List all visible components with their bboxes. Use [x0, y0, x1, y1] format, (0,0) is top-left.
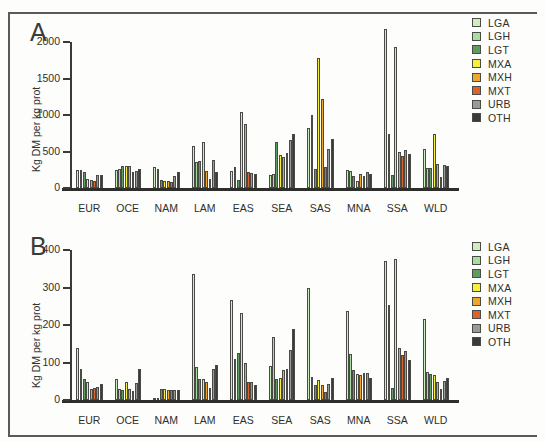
x-axis-line — [62, 188, 459, 191]
legend-label: MXH — [488, 71, 512, 83]
figure-container: A Kg DM per kg prot 0500100015002000EURO… — [0, 0, 545, 442]
legend-swatch — [472, 269, 481, 278]
panel-a-plot-area: 0500100015002000EUROCENAMLAMEASSEASASMNA… — [70, 42, 455, 188]
y-axis-tick-label: 400 — [8, 243, 60, 255]
x-axis-tick-label: SAS — [301, 414, 340, 426]
legend-swatch — [472, 310, 481, 319]
y-axis-tick — [63, 78, 70, 80]
legend-label: LGT — [488, 44, 509, 56]
legend-item: MXH — [472, 70, 512, 84]
bar — [408, 360, 411, 401]
legend-item: URB — [472, 322, 512, 336]
y-axis-tick-label: 0 — [8, 393, 60, 405]
bar — [177, 390, 180, 400]
y-axis-tick — [63, 324, 70, 326]
y-axis-tick-label: 1500 — [8, 72, 60, 84]
legend-swatch — [472, 45, 481, 54]
legend-label: LGA — [488, 17, 510, 29]
panel-b: B Kg DM per kg prot 0100200300400EUROCEN… — [0, 228, 545, 438]
legend-label: MXA — [488, 282, 511, 294]
x-axis-tick-label: NAM — [147, 414, 186, 426]
x-axis-tick-label: SEA — [263, 414, 302, 426]
bar — [388, 305, 391, 400]
y-axis-tick — [63, 287, 70, 289]
bar — [331, 378, 334, 401]
bar — [331, 139, 334, 188]
legend-swatch — [472, 242, 481, 251]
x-axis-tick-label: WLD — [417, 414, 456, 426]
x-axis-tick-label: MNA — [340, 414, 379, 426]
bar — [177, 172, 180, 188]
legend-swatch — [472, 32, 481, 41]
y-axis-line — [70, 250, 72, 401]
legend-item: MXH — [472, 294, 512, 308]
legend-swatch — [472, 256, 481, 265]
y-axis-tick-label: 200 — [8, 318, 60, 330]
legend-item: URB — [472, 98, 512, 112]
legend-swatch — [472, 297, 481, 306]
legend-item: LGA — [472, 240, 512, 254]
panel-a: A Kg DM per kg prot 0500100015002000EURO… — [0, 12, 545, 227]
bar — [446, 378, 449, 400]
x-axis-tick-label: EUR — [70, 202, 109, 214]
panel-a-legend: LGALGHLGTMXAMXHMXTURBOTH — [472, 16, 512, 125]
x-axis-tick-label: EAS — [224, 202, 263, 214]
x-axis-tick-label: WLD — [417, 202, 456, 214]
legend-item: LGA — [472, 16, 512, 30]
legend-swatch — [472, 59, 481, 68]
legend-item: OTH — [472, 335, 512, 349]
bar — [369, 378, 372, 400]
x-axis-tick-label: OCE — [109, 202, 148, 214]
y-axis-tick — [63, 249, 70, 251]
x-axis-tick-label: MNA — [340, 202, 379, 214]
legend-item: MXA — [472, 57, 512, 71]
y-axis-tick — [63, 187, 70, 189]
legend-swatch — [472, 113, 481, 122]
x-axis-tick-label: LAM — [186, 414, 225, 426]
bar — [369, 174, 372, 188]
bar — [100, 384, 103, 400]
legend-item: MXT — [472, 84, 512, 98]
y-axis-tick-label: 2000 — [8, 35, 60, 47]
x-axis-line — [62, 400, 459, 403]
bar — [138, 169, 141, 188]
y-axis-line — [70, 42, 72, 189]
panel-b-plot-area: 0100200300400EUROCENAMLAMEASSEASASMNASSA… — [70, 250, 455, 400]
y-axis-tick-label: 300 — [8, 281, 60, 293]
bar — [292, 134, 295, 188]
y-axis-tick-label: 1000 — [8, 108, 60, 120]
y-axis-tick-label: 0 — [8, 181, 60, 193]
legend-label: MXT — [488, 309, 511, 321]
panel-a-y-axis-title: Kg DM per kg prot — [30, 87, 42, 172]
x-axis-tick-label: LAM — [186, 202, 225, 214]
legend-label: LGT — [488, 268, 509, 280]
x-axis-tick-label: SEA — [263, 202, 302, 214]
legend-swatch — [472, 283, 481, 292]
legend-item: LGH — [472, 254, 512, 268]
legend-item: LGT — [472, 267, 512, 281]
legend-label: OTH — [488, 336, 511, 348]
x-axis-tick-label: EUR — [70, 414, 109, 426]
bar — [408, 154, 411, 188]
legend-label: OTH — [488, 112, 511, 124]
legend-swatch — [472, 18, 481, 27]
x-axis-tick-label: OCE — [109, 414, 148, 426]
y-axis-tick — [63, 399, 70, 401]
legend-label: LGH — [488, 30, 510, 42]
bar — [254, 385, 257, 400]
legend-label: URB — [488, 322, 511, 334]
panel-b-legend: LGALGHLGTMXAMXHMXTURBOTH — [472, 240, 512, 349]
bar — [292, 329, 295, 400]
bar — [446, 166, 449, 188]
y-axis-tick — [63, 114, 70, 116]
legend-item: OTH — [472, 111, 512, 125]
y-axis-tick — [63, 41, 70, 43]
legend-label: URB — [488, 98, 511, 110]
x-axis-tick-label: SAS — [301, 202, 340, 214]
legend-label: LGH — [488, 254, 510, 266]
legend-item: MXT — [472, 308, 512, 322]
legend-swatch — [472, 100, 481, 109]
bar — [215, 365, 218, 400]
x-axis-tick-label: SSA — [378, 414, 417, 426]
y-axis-tick-label: 100 — [8, 356, 60, 368]
